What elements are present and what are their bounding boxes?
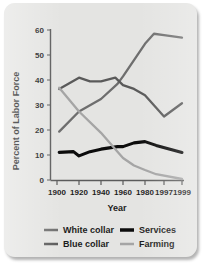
legend-label: Services bbox=[139, 225, 176, 235]
x-tick-label: 1920 bbox=[70, 188, 88, 197]
x-axis bbox=[51, 181, 185, 186]
line-chart: Percent of Labor Force 60 50 40 30 20 10… bbox=[4, 3, 197, 257]
series-line-farming bbox=[59, 88, 182, 179]
x-tick-label: 1940 bbox=[92, 188, 110, 197]
legend-item-services[interactable]: Services bbox=[120, 225, 176, 235]
x-tick-label: 1980 bbox=[136, 188, 154, 197]
y-tick-label: 60 bbox=[35, 26, 44, 35]
legend-item-blue-collar[interactable]: Blue collar bbox=[44, 239, 110, 249]
legend-label: Farming bbox=[139, 239, 175, 249]
x-tick-label: 1960 bbox=[114, 188, 132, 197]
x-tick-label: 1999 bbox=[173, 188, 191, 197]
y-tick-label: 30 bbox=[35, 101, 44, 110]
chart-figure: Percent of Labor Force 60 50 40 30 20 10… bbox=[4, 3, 197, 257]
legend-label: Blue collar bbox=[63, 239, 110, 249]
y-axis-title: Percent of Labor Force bbox=[11, 72, 21, 171]
chart-card: Percent of Labor Force 60 50 40 30 20 10… bbox=[4, 3, 197, 257]
y-tick-label: 40 bbox=[35, 76, 44, 85]
x-axis-ticklabels: 1900 1920 1940 1960 1980 1997 1999 bbox=[48, 188, 191, 197]
y-axis-ticklabels: 60 50 40 30 20 10 0 bbox=[35, 26, 44, 185]
y-axis bbox=[47, 29, 51, 180]
x-tick-label: 1997 bbox=[155, 188, 173, 197]
y-tick-label: 0 bbox=[40, 176, 45, 185]
x-axis-title: Year bbox=[107, 203, 127, 213]
x-tick-label: 1900 bbox=[48, 188, 66, 197]
legend-item-white-collar[interactable]: White collar bbox=[44, 225, 115, 235]
y-tick-label: 50 bbox=[35, 51, 44, 60]
series-group bbox=[59, 34, 182, 179]
y-tick-label: 20 bbox=[35, 126, 44, 135]
y-tick-label: 10 bbox=[35, 151, 44, 160]
legend-item-farming[interactable]: Farming bbox=[120, 239, 175, 249]
legend-label: White collar bbox=[63, 225, 115, 235]
chart-legend: White collarServicesBlue collarFarming bbox=[44, 225, 176, 249]
